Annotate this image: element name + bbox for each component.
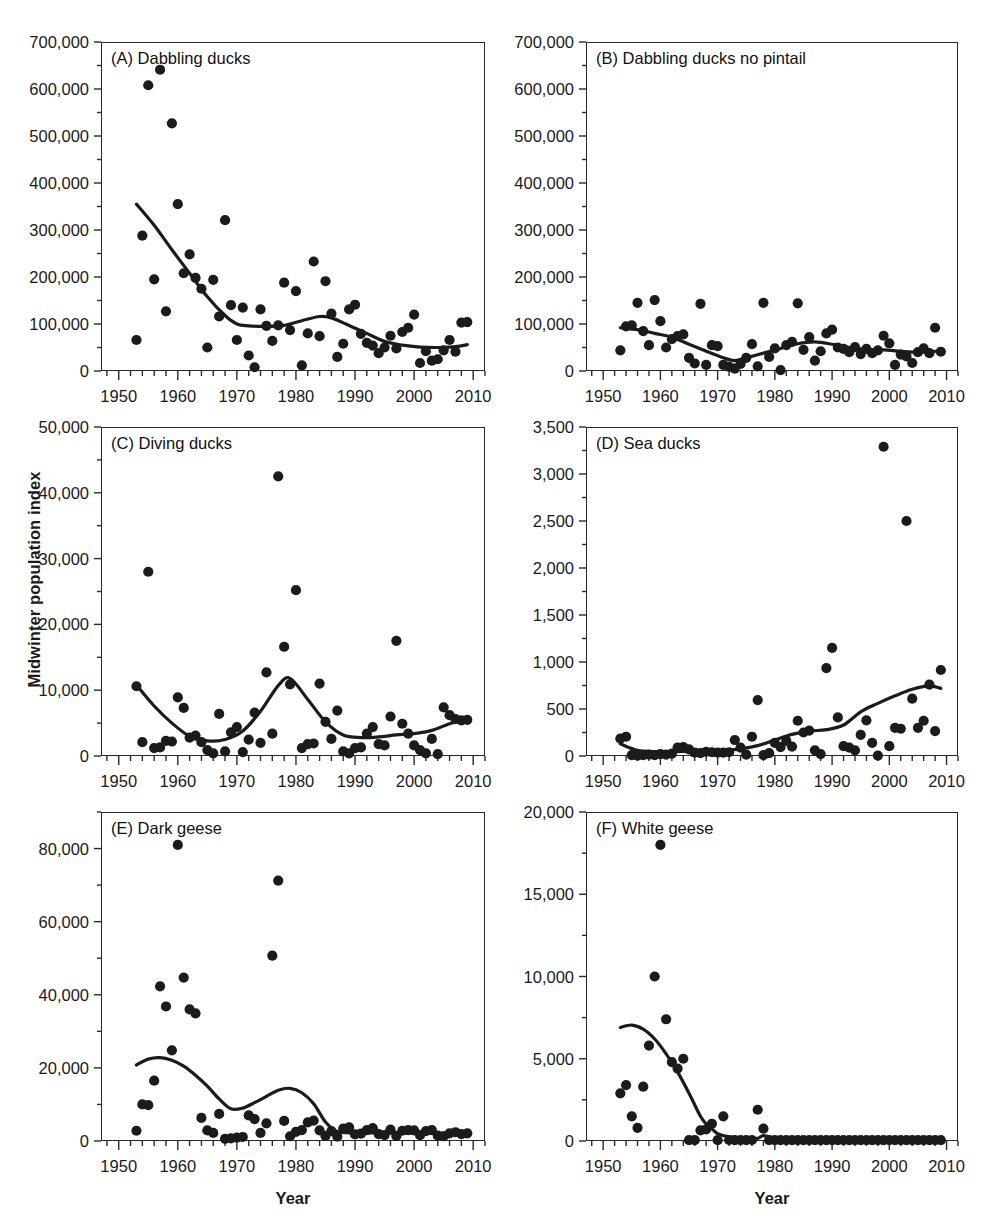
xtick-label-f-2: 1970: [699, 1157, 736, 1176]
data-point: [661, 1014, 671, 1024]
xtick-label-f-4: 1990: [814, 1157, 851, 1176]
data-point: [615, 1088, 625, 1098]
xtick-label-f-3: 1980: [757, 1157, 794, 1176]
data-point: [638, 1082, 648, 1092]
data-point: [678, 1054, 688, 1064]
xtick-label-f-6: 2010: [928, 1157, 965, 1176]
xtick-label-f-5: 2000: [871, 1157, 908, 1176]
data-point: [713, 1135, 723, 1145]
ytick-label-f-3: 15,000: [491, 885, 574, 904]
data-point: [747, 1135, 757, 1145]
data-point: [936, 1135, 946, 1145]
data-point: [672, 1064, 682, 1074]
data-point: [621, 1080, 631, 1090]
ytick-label-f-0: 0: [491, 1132, 574, 1151]
xtick-label-f-1: 1960: [642, 1157, 679, 1176]
x-axis-title-f: Year: [755, 1189, 790, 1208]
data-point: [632, 1123, 642, 1133]
trend-line-f: [620, 1025, 940, 1139]
plot-canvas-f: [0, 0, 983, 1220]
xtick-label-f-0: 1950: [585, 1157, 622, 1176]
data-point: [753, 1105, 763, 1115]
data-point: [758, 1124, 768, 1134]
data-point: [627, 1111, 637, 1121]
data-point: [718, 1111, 728, 1121]
ytick-label-f-2: 10,000: [491, 967, 574, 986]
data-point: [644, 1040, 654, 1050]
data-point: [690, 1135, 700, 1145]
ytick-label-f-1: 5,000: [491, 1049, 574, 1068]
ytick-label-f-4: 20,000: [491, 803, 574, 822]
multi-panel-figure: Midwinter population index (A) Dabbling …: [0, 0, 983, 1220]
data-point: [650, 971, 660, 981]
panel-f: (F) White geese05,00010,00015,00020,0001…: [0, 0, 983, 1220]
data-point: [655, 840, 665, 850]
data-point: [707, 1119, 717, 1129]
